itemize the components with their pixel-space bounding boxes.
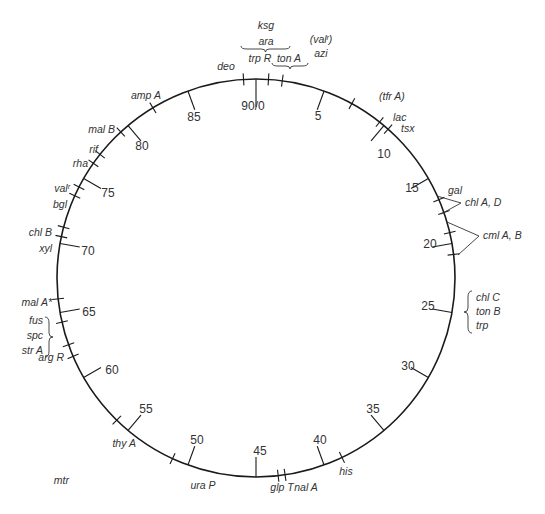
- gene-label-amp-a: amp A: [131, 89, 161, 101]
- scale-label-75: 75: [101, 186, 115, 200]
- scale-label-0: 90/0: [241, 99, 265, 113]
- gene-label-glp-t: glp T: [270, 481, 295, 493]
- gene-label-gal: gal: [448, 184, 463, 196]
- scale-tick-35: [371, 415, 384, 430]
- group-label-ksg-ara-0: ksg: [258, 19, 275, 31]
- scale-tick-55: [128, 415, 141, 430]
- chromosome-circle: [57, 79, 455, 477]
- grouped-gene-labels: ksgara(valʳ)azichl A, Dcml A, Bchl Cton …: [22, 19, 522, 357]
- gene-label-rha: rha: [73, 157, 88, 169]
- gene-label-mal-b: mal B: [88, 123, 115, 135]
- scale-label-10: 10: [377, 147, 391, 161]
- gene-tick-amp-a: [150, 103, 156, 113]
- scale-label-30: 30: [401, 359, 415, 373]
- gene-label-chl-b: chl B: [29, 226, 52, 238]
- group-label-chlC-tonB-trp-0: chl C: [476, 291, 500, 303]
- scale-tick-50: [188, 446, 195, 465]
- scale-tick-70: [60, 243, 80, 246]
- gene-label-mtr: mtr: [54, 474, 70, 486]
- gene-label-bgl: bgl: [53, 198, 68, 210]
- scale-tick-60: [84, 368, 101, 378]
- group-label-chlC-tonB-trp-2: trp: [476, 319, 488, 331]
- scale-label-45: 45: [253, 444, 267, 458]
- scale-label-70: 70: [81, 244, 95, 258]
- gene-tick-lac: [376, 117, 383, 126]
- scale-tick-65: [60, 309, 80, 312]
- group-label-cmlAB-0: cml A, B: [483, 229, 522, 241]
- scale-label-40: 40: [313, 433, 327, 447]
- scale-tick-40: [317, 446, 324, 465]
- scale-tick-10: [371, 126, 384, 141]
- gene-label-nal-a: nal A: [294, 481, 318, 493]
- group-label-ksg-ara-1: ara: [258, 35, 273, 47]
- gene-label-thy-a: thy A: [112, 437, 136, 449]
- group-label-chlC-tonB-trp-1: ton B: [476, 305, 501, 317]
- gene-tick-deo: [243, 73, 244, 85]
- scale-tick-5: [317, 91, 324, 110]
- gene-label-trp-r: trp R: [249, 52, 272, 64]
- gene-label-val-: valʳ: [54, 182, 70, 194]
- gene-tick-mal-a-: [52, 298, 64, 299]
- gene-label-his: his: [339, 465, 353, 477]
- scale-tick-85: [188, 91, 195, 110]
- scale-label-25: 25: [421, 299, 435, 313]
- gene-label-mal-a-: mal A*: [21, 296, 52, 308]
- scale-labels: 90/0510152025303540455055606570758085: [81, 99, 437, 458]
- gene-label--tfr-a-: (tfr A): [379, 90, 405, 102]
- circular-genetic-map: 90/0510152025303540455055606570758085 de…: [0, 0, 545, 514]
- scale-label-80: 80: [135, 139, 149, 153]
- scale-label-5: 5: [315, 109, 322, 123]
- group-label-fus-spc-strA-1: spc: [27, 329, 44, 341]
- gene-tick-unlabeled: [448, 254, 460, 255]
- scale-label-55: 55: [139, 402, 153, 416]
- scale-tick-25: [432, 309, 452, 312]
- group-label-fus-spc-strA-2: str A: [22, 344, 43, 356]
- group-label-chlAD-0: chl A, D: [465, 196, 502, 208]
- group-label-valr-azi-0: (valʳ): [310, 33, 333, 45]
- gene-labels: deotrp Rton A(tfr A)lactsxgalhisnal Aglp…: [21, 52, 462, 493]
- gene-tick-val-: [74, 184, 85, 189]
- scale-label-65: 65: [82, 305, 96, 319]
- scale-label-50: 50: [190, 433, 204, 447]
- gene-tick-trp-r: [268, 73, 269, 85]
- gene-tick--tfr-a-: [349, 98, 355, 109]
- scale-label-15: 15: [405, 181, 419, 195]
- gene-label-ura-p: ura P: [190, 479, 215, 491]
- brace-chlC-tonB-trp: [464, 291, 472, 333]
- gene-label-deo: deo: [217, 60, 235, 72]
- scale-label-60: 60: [105, 363, 119, 377]
- scale-ticks: [60, 79, 452, 477]
- gene-label-rif: rif: [89, 143, 99, 155]
- gene-tick-glp-t: [278, 470, 279, 482]
- gene-label-tsx: tsx: [401, 122, 415, 134]
- scale-label-20: 20: [423, 237, 437, 251]
- scale-label-85: 85: [187, 110, 201, 124]
- gene-tick-rha: [88, 160, 98, 167]
- scale-tick-75: [84, 179, 101, 189]
- scale-label-35: 35: [366, 402, 380, 416]
- group-label-fus-spc-strA-0: fus: [29, 314, 44, 326]
- gene-label-xyl: xyl: [38, 242, 53, 254]
- gene-label-ton-a: ton A: [277, 52, 301, 64]
- group-label-valr-azi-1: azi: [314, 47, 328, 59]
